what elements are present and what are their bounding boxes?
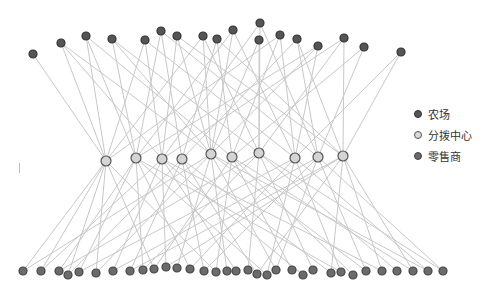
farm-swatch-icon bbox=[414, 110, 422, 118]
farm-hub-edge bbox=[33, 54, 106, 161]
hub-retailer-edge bbox=[295, 158, 428, 271]
legend: 农场 分拨中心 零售商 bbox=[414, 103, 472, 166]
farm-node bbox=[173, 32, 181, 40]
farm-node bbox=[255, 36, 263, 44]
hub-retailer-edge bbox=[331, 156, 343, 273]
farm-node bbox=[82, 32, 90, 40]
farm-node bbox=[108, 35, 116, 43]
farm-node bbox=[141, 36, 149, 44]
node-layer bbox=[19, 19, 447, 279]
retailer-node bbox=[126, 267, 134, 275]
farm-hub-edge bbox=[112, 39, 136, 158]
hub-swatch-icon bbox=[414, 131, 422, 139]
retailer-node bbox=[299, 271, 307, 279]
retailer-node bbox=[288, 266, 296, 274]
retailer-node bbox=[309, 266, 317, 274]
hub-retailer-edge bbox=[68, 161, 106, 275]
retailer-node bbox=[186, 265, 194, 273]
hub-node bbox=[177, 154, 187, 164]
farm-hub-edge bbox=[203, 36, 259, 153]
retailer-node bbox=[223, 267, 231, 275]
farm-node bbox=[157, 27, 165, 35]
hub-node bbox=[338, 151, 348, 161]
hub-node bbox=[290, 153, 300, 163]
retailer-node bbox=[37, 267, 45, 275]
farm-hub-edge bbox=[177, 36, 211, 154]
hub-node bbox=[157, 154, 167, 164]
farm-node bbox=[340, 34, 348, 42]
farm-node bbox=[229, 26, 237, 34]
hub-node bbox=[101, 156, 111, 166]
retailer-node bbox=[263, 271, 271, 279]
farm-node bbox=[256, 19, 264, 27]
farm-hub-edge bbox=[145, 40, 295, 158]
retailer-node bbox=[409, 267, 417, 275]
farm-hub-edge bbox=[280, 35, 295, 158]
retailer-node bbox=[244, 266, 252, 274]
legend-item-hub: 分拨中心 bbox=[414, 124, 472, 145]
retailer-node bbox=[212, 268, 220, 276]
retailer-node bbox=[139, 266, 147, 274]
hub-retailer-edge bbox=[295, 158, 341, 272]
hub-retailer-edge bbox=[276, 157, 318, 270]
farm-node bbox=[360, 43, 368, 51]
hub-node bbox=[206, 149, 216, 159]
hub-retailer-edge bbox=[23, 161, 106, 271]
farm-hub-edge bbox=[86, 36, 136, 158]
retailer-node bbox=[232, 267, 240, 275]
axis-tick-mark bbox=[19, 163, 20, 173]
hub-node bbox=[131, 153, 141, 163]
farm-hub-edge bbox=[295, 52, 401, 158]
farm-node bbox=[199, 32, 207, 40]
retailer-node bbox=[337, 268, 345, 276]
farm-node bbox=[314, 42, 322, 50]
hub-retailer-edge bbox=[96, 161, 106, 273]
farm-hub-edge bbox=[86, 36, 106, 161]
retailer-node bbox=[439, 267, 447, 275]
retailer-node bbox=[200, 267, 208, 275]
retailer-node bbox=[362, 267, 370, 275]
retailer-node bbox=[349, 271, 357, 279]
farm-node bbox=[57, 39, 65, 47]
retailer-node bbox=[109, 267, 117, 275]
legend-label-farm: 农场 bbox=[428, 106, 450, 122]
hub-node bbox=[227, 152, 237, 162]
retailer-node bbox=[162, 263, 170, 271]
retailer-node bbox=[253, 270, 261, 278]
hub-node bbox=[313, 152, 323, 162]
retailer-node bbox=[327, 269, 335, 277]
hub-retailer-edge bbox=[257, 156, 343, 274]
retailer-node bbox=[424, 267, 432, 275]
retailer-node bbox=[55, 267, 63, 275]
retailer-node bbox=[393, 267, 401, 275]
farm-hub-edge bbox=[136, 30, 233, 158]
farm-hub-edge bbox=[61, 43, 106, 161]
hub-retailer-edge bbox=[136, 158, 143, 270]
retailer-node bbox=[173, 264, 181, 272]
legend-label-retailer: 零售商 bbox=[428, 148, 461, 164]
edge-layer bbox=[23, 23, 443, 275]
farm-node bbox=[293, 35, 301, 43]
farm-node bbox=[29, 50, 37, 58]
legend-item-farm: 农场 bbox=[414, 103, 472, 124]
retailer-node bbox=[150, 265, 158, 273]
retailer-node bbox=[378, 267, 386, 275]
farm-node bbox=[213, 35, 221, 43]
farm-hub-edge bbox=[233, 30, 295, 158]
farm-node bbox=[276, 31, 284, 39]
hub-retailer-edge bbox=[318, 157, 366, 271]
retailer-node bbox=[19, 267, 27, 275]
retailer-node bbox=[75, 268, 83, 276]
retailer-swatch-icon bbox=[414, 152, 422, 160]
retailer-node bbox=[64, 271, 72, 279]
retailer-node bbox=[272, 266, 280, 274]
network-diagram: 农场 分拨中心 零售商 bbox=[0, 0, 490, 299]
retailer-node bbox=[92, 269, 100, 277]
hub-retailer-edge bbox=[232, 157, 413, 271]
legend-label-hub: 分拨中心 bbox=[428, 127, 472, 143]
farm-node bbox=[397, 48, 405, 56]
hub-node bbox=[254, 148, 264, 158]
legend-item-retailer: 零售商 bbox=[414, 145, 472, 166]
farm-hub-edge bbox=[343, 52, 401, 156]
